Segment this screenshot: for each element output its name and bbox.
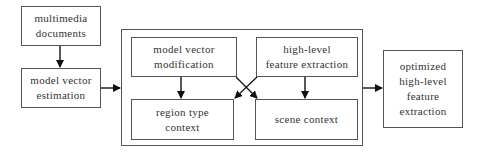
connector-arrows xyxy=(0,0,478,152)
